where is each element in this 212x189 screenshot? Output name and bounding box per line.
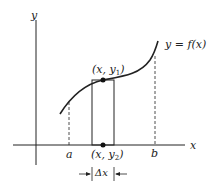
top-point-label: (x, y1) [92, 64, 125, 77]
curve-label-text: y = f(x) [165, 38, 206, 51]
arrow-right-pointing-icon [86, 172, 91, 176]
point-top [101, 78, 106, 83]
bound-b-label: b [151, 148, 158, 159]
function-curve [60, 41, 158, 114]
delta-x-label: Δx [95, 168, 108, 178]
point-bottom [101, 143, 106, 148]
y-axis-label: y [31, 10, 37, 21]
approximating-rectangle [92, 80, 114, 145]
curve-label: y = f(x) [165, 39, 206, 50]
arrow-left-pointing-icon [115, 172, 120, 176]
bottom-point-sub: 2 [115, 154, 119, 162]
x-axis-label: x [190, 140, 196, 151]
top-point-x: x [96, 63, 102, 76]
bound-a-label: a [66, 149, 73, 160]
top-point-sub: 1 [116, 69, 120, 77]
bottom-point-x: x [95, 148, 101, 161]
bottom-point-label: (x, y2) [91, 149, 124, 162]
